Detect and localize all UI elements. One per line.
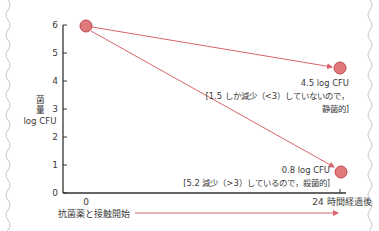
svg-text:量: 量 xyxy=(36,105,45,115)
svg-text:1: 1 xyxy=(52,160,58,170)
svg-text:3: 3 xyxy=(52,104,58,114)
y-tick-labels: 0 1 2 3 4 5 6 xyxy=(52,20,58,198)
annotation-bactericidal: 0.8 log CFU [5.2 減少（>3）しているので，殺菌的] xyxy=(183,165,330,188)
x-axis-label: 抗菌薬と接触開始 xyxy=(58,208,130,219)
svg-text:0.8 log CFU: 0.8 log CFU xyxy=(282,165,330,175)
svg-text:静菌的]: 静菌的] xyxy=(322,104,349,114)
wavy-border-left xyxy=(6,0,10,231)
svg-text:2: 2 xyxy=(52,132,58,142)
svg-text:5: 5 xyxy=(52,48,58,58)
series-line-bacteriostatic xyxy=(92,27,332,67)
svg-text:0: 0 xyxy=(52,188,58,198)
x-tick-label-0: 0 xyxy=(83,197,89,207)
annotation-bacteriostatic: 4.5 log CFU [1.5 しか減少（<3）していないので， 静菌的] xyxy=(205,78,349,114)
data-point-start xyxy=(80,20,92,32)
svg-text:菌: 菌 xyxy=(36,94,45,105)
svg-text:4.5 log CFU: 4.5 log CFU xyxy=(301,78,349,88)
svg-text:log CFU: log CFU xyxy=(23,116,56,126)
svg-text:[1.5 しか減少（<3）していないので，: [1.5 しか減少（<3）していないので， xyxy=(205,91,349,101)
chart: 0 1 2 3 4 5 6 菌 量 log CFU 0 24 時間経過後 抗菌薬… xyxy=(0,0,379,231)
svg-text:4: 4 xyxy=(52,76,58,86)
svg-text:[5.2 減少（>3）しているので，殺菌的]: [5.2 減少（>3）しているので，殺菌的] xyxy=(183,178,330,188)
data-point-bactericidal xyxy=(335,166,347,178)
svg-text:6: 6 xyxy=(52,20,58,30)
data-point-bacteriostatic xyxy=(334,62,346,74)
x-tick-label-24h: 24 時間経過後 xyxy=(312,196,371,207)
